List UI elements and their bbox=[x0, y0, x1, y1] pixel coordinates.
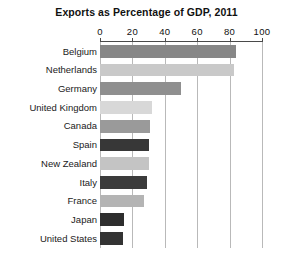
tick-mark-60 bbox=[197, 38, 198, 42]
bar-row: France bbox=[0, 192, 293, 211]
bar-track bbox=[100, 157, 262, 170]
bar-track bbox=[100, 213, 262, 226]
bar-japan bbox=[100, 213, 124, 226]
bar-row: Germany bbox=[0, 79, 293, 98]
bar-row: Spain bbox=[0, 136, 293, 155]
bar-track bbox=[100, 45, 262, 58]
bar-track bbox=[100, 232, 262, 245]
bar-row: Japan bbox=[0, 210, 293, 229]
bar-row: United Kingdom bbox=[0, 98, 293, 117]
category-label-united-states: United States bbox=[40, 234, 97, 244]
category-label-new-zealand: New Zealand bbox=[41, 159, 97, 169]
bar-netherlands bbox=[100, 64, 234, 77]
bar-row: Netherlands bbox=[0, 61, 293, 80]
bar-new-zealand bbox=[100, 157, 149, 170]
category-label-germany: Germany bbox=[58, 84, 97, 94]
category-label-italy: Italy bbox=[80, 178, 97, 188]
bar-track bbox=[100, 82, 262, 95]
tick-mark-100 bbox=[262, 38, 263, 42]
bar-spain bbox=[100, 139, 149, 152]
bar-france bbox=[100, 195, 144, 208]
category-label-canada: Canada bbox=[64, 121, 97, 131]
bar-track bbox=[100, 195, 262, 208]
bar-track bbox=[100, 101, 262, 114]
x-tick-label-100: 100 bbox=[254, 26, 271, 37]
bar-track bbox=[100, 64, 262, 77]
bar-germany bbox=[100, 82, 181, 95]
category-label-united-kingdom: United Kingdom bbox=[29, 103, 97, 113]
bar-belgium bbox=[100, 45, 236, 58]
category-label-netherlands: Netherlands bbox=[46, 65, 97, 75]
category-label-france: France bbox=[67, 196, 97, 206]
bar-track bbox=[100, 139, 262, 152]
chart-title: Exports as Percentage of GDP, 2011 bbox=[0, 6, 293, 18]
bar-rows: BelgiumNetherlandsGermanyUnited KingdomC… bbox=[0, 42, 293, 248]
tick-mark-20 bbox=[132, 38, 133, 42]
bar-track bbox=[100, 120, 262, 133]
bar-row: Belgium bbox=[0, 42, 293, 61]
bar-track bbox=[100, 176, 262, 189]
x-tick-label-80: 80 bbox=[224, 26, 235, 37]
x-tick-label-20: 20 bbox=[127, 26, 138, 37]
bar-row: Italy bbox=[0, 173, 293, 192]
bar-united-kingdom bbox=[100, 101, 152, 114]
bar-row: United States bbox=[0, 229, 293, 248]
bar-italy bbox=[100, 176, 147, 189]
x-tick-label-40: 40 bbox=[159, 26, 170, 37]
category-label-japan: Japan bbox=[71, 215, 97, 225]
bar-chart-figure: Exports as Percentage of GDP, 2011 02040… bbox=[0, 0, 293, 265]
tick-mark-40 bbox=[165, 38, 166, 42]
category-label-belgium: Belgium bbox=[63, 47, 97, 57]
bar-united-states bbox=[100, 232, 123, 245]
category-label-spain: Spain bbox=[73, 140, 97, 150]
x-tick-label-60: 60 bbox=[192, 26, 203, 37]
x-tick-label-0: 0 bbox=[97, 26, 103, 37]
bar-canada bbox=[100, 120, 150, 133]
bar-row: New Zealand bbox=[0, 154, 293, 173]
x-axis-tick-labels: 020406080100 bbox=[100, 26, 262, 40]
bar-row: Canada bbox=[0, 117, 293, 136]
tick-mark-80 bbox=[230, 38, 231, 42]
tick-mark-0 bbox=[100, 38, 101, 42]
